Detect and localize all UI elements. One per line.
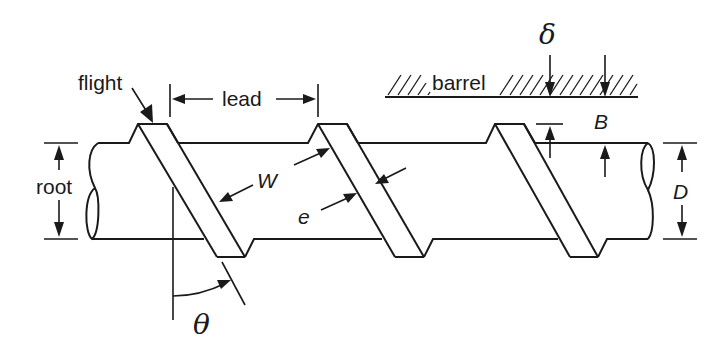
- screw-root: [86, 124, 654, 257]
- lead-label: lead: [222, 87, 262, 110]
- flight-label: flight: [78, 71, 123, 94]
- channel-width-dimension: W: [219, 148, 330, 202]
- right-break-end: [641, 143, 654, 190]
- lead-dimension: lead: [170, 84, 318, 117]
- barrel: barrel: [385, 71, 638, 97]
- left-break-end: [86, 143, 98, 239]
- helix-angle: θ: [173, 187, 245, 341]
- barrel-label: barrel: [432, 71, 486, 94]
- delta-label: δ: [539, 18, 556, 51]
- root-label: root: [36, 175, 72, 198]
- screw-geometry-diagram: barrel δ: [0, 0, 725, 347]
- barrel-hatching: [388, 75, 637, 95]
- B-label: B: [594, 110, 608, 133]
- root-dimension: root: [36, 143, 78, 239]
- W-label: W: [257, 169, 279, 192]
- clearance-dimension: δ: [539, 18, 610, 97]
- e-label: e: [298, 205, 310, 228]
- D-label: D: [673, 180, 688, 203]
- diameter-dimension: D: [663, 143, 697, 239]
- theta-label: θ: [193, 308, 210, 341]
- flight-callout: flight: [78, 71, 153, 123]
